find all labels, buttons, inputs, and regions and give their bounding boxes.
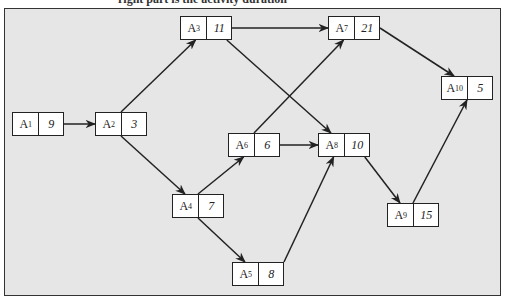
activity-label: A1 <box>13 113 39 135</box>
activity-label-base: A <box>102 117 111 132</box>
edge-a2-to-a3 <box>121 40 196 112</box>
activity-label-base: A <box>446 81 455 96</box>
activity-label-index: 10 <box>455 84 463 93</box>
activity-label-index: 8 <box>334 141 338 150</box>
activity-label-base: A <box>335 21 344 36</box>
activity-label-base: A <box>239 267 248 282</box>
activity-duration: 7 <box>199 195 223 217</box>
activity-duration: 5 <box>468 77 492 99</box>
activity-label-base: A <box>19 117 28 132</box>
activity-label: A4 <box>173 195 199 217</box>
activity-label-base: A <box>235 138 244 153</box>
edge-a6-to-a7 <box>254 40 344 133</box>
activity-node-a1: A19 <box>12 112 64 136</box>
edge-a2-to-a4 <box>121 136 185 194</box>
activity-label: A9 <box>388 204 414 226</box>
activity-duration: 8 <box>259 263 283 285</box>
activity-label-index: 7 <box>344 24 348 33</box>
activity-label-index: 5 <box>248 270 252 279</box>
activity-node-a7: A721 <box>328 16 380 40</box>
activity-label-base: A <box>187 21 196 36</box>
activity-label-index: 4 <box>188 202 192 211</box>
activity-duration: 6 <box>255 134 279 156</box>
activity-label-base: A <box>394 208 403 223</box>
activity-label-base: A <box>179 199 188 214</box>
activity-label-index: 2 <box>111 120 115 129</box>
activity-duration: 15 <box>414 204 438 226</box>
activity-node-a6: A66 <box>228 133 280 157</box>
activity-node-a5: A58 <box>232 262 284 286</box>
edge-a4-to-a6 <box>198 157 244 194</box>
activity-label: A10 <box>442 77 468 99</box>
activity-label-index: 9 <box>403 211 407 220</box>
activity-duration: 21 <box>355 17 379 39</box>
activity-label: A3 <box>181 17 207 39</box>
activity-label-index: 3 <box>196 24 200 33</box>
edge-a4-to-a5 <box>198 218 245 262</box>
activity-label-index: 6 <box>244 141 248 150</box>
activity-label: A2 <box>96 113 122 135</box>
activity-duration: 3 <box>122 113 146 135</box>
activity-label: A6 <box>229 134 255 156</box>
activity-duration: 11 <box>207 17 231 39</box>
edge-a5-to-a8 <box>284 157 334 262</box>
activity-node-a4: A47 <box>172 194 224 218</box>
activity-label-base: A <box>325 138 334 153</box>
activity-duration: 9 <box>39 113 63 135</box>
activity-label: A8 <box>319 134 345 156</box>
activity-node-a9: A915 <box>387 203 439 227</box>
activity-node-a10: A105 <box>441 76 493 100</box>
activity-node-a3: A311 <box>180 16 232 40</box>
activity-label: A5 <box>233 263 259 285</box>
activity-duration: 10 <box>345 134 369 156</box>
activity-label: A7 <box>329 17 355 39</box>
activity-node-a8: A810 <box>318 133 370 157</box>
edge-a8-to-a9 <box>365 157 400 203</box>
edge-a7-to-a10 <box>380 28 454 76</box>
activity-node-a2: A23 <box>95 112 147 136</box>
edge-a3-to-a8 <box>227 40 331 133</box>
edge-a9-to-a10 <box>413 100 467 203</box>
activity-label-index: 1 <box>28 120 32 129</box>
